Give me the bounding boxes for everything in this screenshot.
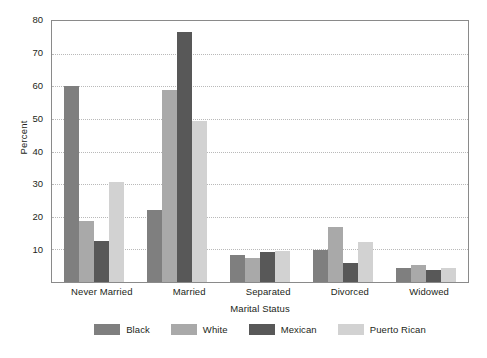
x-tick-label: Widowed [409,286,449,297]
bar-group [313,21,373,282]
legend-label: Black [126,324,150,335]
x-axis-tick-labels: Never MarriedMarriedSeparatedDivorcedWid… [51,286,469,297]
y-tick-label: 40 [10,147,48,157]
bar[interactable] [328,227,343,282]
bar[interactable] [343,263,358,282]
legend-label: White [203,324,228,335]
bar-groups [52,21,468,282]
bar-group [396,21,456,282]
bar[interactable] [441,268,456,282]
x-tick-label: Separated [246,286,291,297]
plot-area [51,20,469,283]
bar[interactable] [79,221,94,282]
x-tick-label: Never Married [71,286,132,297]
x-axis-title: Marital Status [51,303,469,314]
y-axis-tick-labels: 1020304050607080 [10,20,48,283]
bar[interactable] [245,258,260,282]
legend-item[interactable]: Black [94,324,150,335]
bar-chart-figure: Percent 1020304050607080 Never MarriedMa… [0,0,487,358]
legend-item[interactable]: Mexican [249,324,317,335]
legend: BlackWhiteMexicanPuerto Rican [51,324,469,335]
bar-group [64,21,124,282]
legend-label: Mexican [281,324,317,335]
bar[interactable] [162,90,177,282]
bar[interactable] [64,86,79,282]
bar[interactable] [426,270,441,282]
bar[interactable] [275,251,290,282]
y-tick-label: 10 [10,245,48,255]
bar[interactable] [396,268,411,282]
legend-item[interactable]: White [171,324,228,335]
bar[interactable] [230,255,245,282]
y-tick-label: 20 [10,213,48,223]
bar[interactable] [177,32,192,282]
bar[interactable] [147,210,162,282]
bar[interactable] [313,250,328,282]
bar[interactable] [109,182,124,282]
legend-swatch [171,324,197,335]
y-tick-label: 30 [10,180,48,190]
y-tick-label: 80 [10,15,48,25]
legend-swatch [249,324,275,335]
bar[interactable] [260,252,275,282]
bar[interactable] [94,241,109,282]
legend-item[interactable]: Puerto Rican [338,324,426,335]
bar[interactable] [192,121,207,282]
legend-swatch [338,324,364,335]
y-tick-label: 60 [10,81,48,91]
bar-group [230,21,290,282]
x-tick-label: Divorced [331,286,369,297]
legend-label: Puerto Rican [370,324,426,335]
y-tick-label: 70 [10,48,48,58]
y-tick-label: 50 [10,114,48,124]
legend-swatch [94,324,120,335]
bar[interactable] [411,265,426,282]
bar[interactable] [358,242,373,282]
x-tick-label: Married [173,286,206,297]
bar-group [147,21,207,282]
